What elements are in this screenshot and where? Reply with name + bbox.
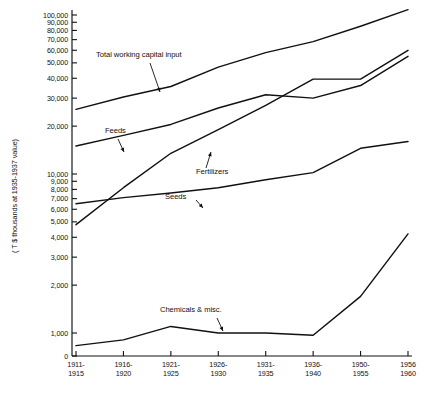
y-tick-label: 30,000 <box>47 95 68 103</box>
y-tick-label: 9,000 <box>51 178 68 186</box>
y-tick-label: 8,000 <box>51 186 68 194</box>
x-tick-label: 1930 <box>210 369 226 378</box>
y-tick-label: 2,000 <box>51 282 68 290</box>
y-tick-label: 7,000 <box>51 195 68 203</box>
series-lines <box>76 10 408 346</box>
x-tick-label: 1931- <box>257 360 276 369</box>
y-tick-label: 5,000 <box>51 218 68 226</box>
series-label-total-working-capital-input: Total working capital input <box>96 50 183 59</box>
series-label-fertilizers: Fertilizers <box>196 167 229 176</box>
y-tick-label: 90,000 <box>47 19 68 27</box>
y-tick-label: 6,000 <box>51 206 68 214</box>
y-tick-label: 4,000 <box>51 234 68 242</box>
x-tick-label: 1926- <box>209 360 228 369</box>
x-tick-label: 1936- <box>304 360 323 369</box>
leader-line-total-working-capital-input <box>150 63 160 92</box>
series-line-chemicals-misc <box>76 234 408 346</box>
x-tick-label: 1925 <box>163 369 179 378</box>
leader-arrowhead-fertilizers <box>208 152 212 157</box>
line-chart: 100,00090,00080,00070,00060,00050,00040,… <box>0 0 421 394</box>
x-tick-label: 1940 <box>305 369 321 378</box>
x-tick-label: 1915 <box>68 369 84 378</box>
y-tick-label: 60,000 <box>47 47 68 55</box>
y-tick-label: 1,000 <box>51 330 68 338</box>
x-axis-ticks: 1911-19151916-19201921-19251926-19301931… <box>67 351 416 378</box>
y-tick-label: 40,000 <box>47 75 68 83</box>
y-axis-title: ( T $ thousands at 1935-1937 value) <box>10 139 19 253</box>
chart-container: 100,00090,00080,00070,00060,00050,00040,… <box>0 0 421 394</box>
y-axis-title-group: ( T $ thousands at 1935-1937 value) <box>10 139 19 253</box>
x-tick-label: 1921- <box>162 360 181 369</box>
series-line-seeds <box>76 142 408 204</box>
series-line-total-working-capital-input <box>76 10 408 110</box>
series-label-seeds: Seeds <box>165 192 187 201</box>
y-tick-label: 70,000 <box>47 36 68 44</box>
x-tick-label: 1920 <box>116 369 132 378</box>
series-label-feeds: Feeds <box>105 126 126 135</box>
y-tick-label: 20,000 <box>47 123 68 131</box>
y-tick-label: 3,000 <box>51 254 68 262</box>
x-tick-label: 1955 <box>353 369 369 378</box>
y-tick-label: 80,000 <box>47 27 68 35</box>
x-tick-label: 1935 <box>258 369 274 378</box>
x-tick-label: 1916- <box>114 360 133 369</box>
series-label-chemicals-misc: Chemicals & misc. <box>160 305 222 314</box>
x-tick-label: 1960 <box>400 369 416 378</box>
x-tick-label: 1911- <box>67 360 85 369</box>
x-tick-label: 1956 <box>400 360 416 369</box>
y-tick-label: 50,000 <box>47 59 68 67</box>
x-tick-label: 1950- <box>352 360 371 369</box>
series-annotations: Total working capital inputFeedsFertiliz… <box>96 50 229 331</box>
series-line-fertilizers <box>76 50 408 224</box>
